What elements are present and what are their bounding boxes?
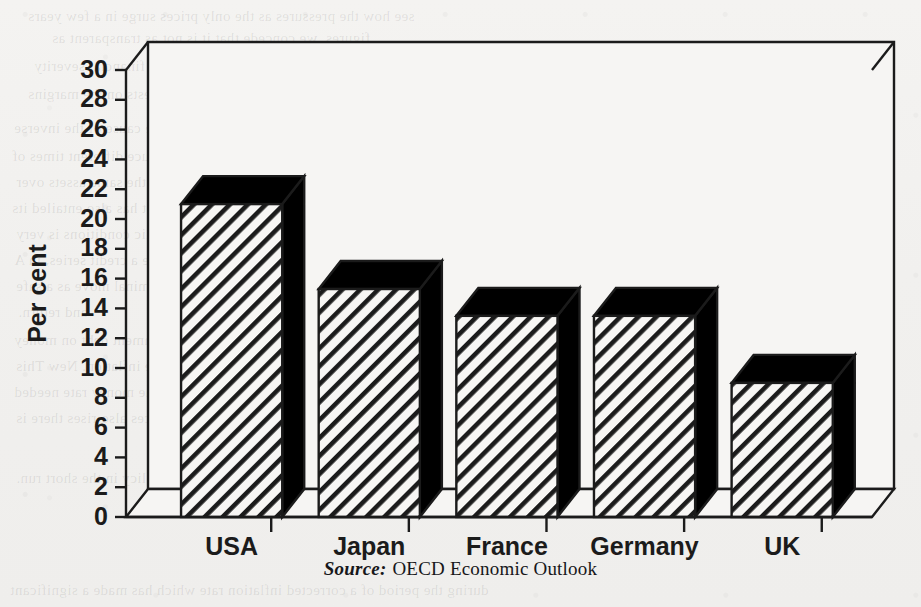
bar-top-face bbox=[732, 355, 855, 383]
bar-uk bbox=[732, 355, 855, 517]
bar-japan bbox=[319, 261, 442, 517]
bar-top-face bbox=[319, 261, 442, 289]
source-caption: Source:OECD Economic Outlook bbox=[0, 558, 921, 580]
bar-top-face bbox=[181, 176, 304, 204]
bar-france bbox=[456, 288, 579, 517]
bar-usa bbox=[181, 176, 304, 517]
y-tick-label: 8 bbox=[94, 382, 108, 410]
source-text: OECD Economic Outlook bbox=[392, 558, 597, 579]
y-tick-label: 22 bbox=[80, 174, 108, 202]
y-axis-title: Per cent bbox=[23, 244, 51, 343]
y-tick-label: 4 bbox=[94, 442, 108, 470]
bar-side-face bbox=[282, 176, 304, 517]
y-tick-label: 20 bbox=[80, 204, 108, 232]
y-tick-label: 18 bbox=[80, 233, 108, 261]
bar-chart-figure: 024681012141618202224262830USAJapanFranc… bbox=[0, 0, 921, 607]
plot-left-top-edge bbox=[126, 42, 148, 70]
y-tick-label: 0 bbox=[94, 502, 108, 530]
source-prefix: Source: bbox=[324, 558, 387, 579]
y-tick-label: 16 bbox=[80, 263, 108, 291]
chart-svg: 024681012141618202224262830USAJapanFranc… bbox=[0, 0, 921, 607]
bar-front-face bbox=[732, 383, 833, 517]
x-category-label: UK bbox=[764, 532, 800, 560]
y-tick-label: 12 bbox=[80, 323, 108, 351]
y-tick-label: 30 bbox=[80, 55, 108, 83]
y-tick-label: 26 bbox=[80, 114, 108, 142]
x-category-label: Japan bbox=[333, 532, 405, 560]
x-category-label: USA bbox=[205, 532, 258, 560]
bar-side-face bbox=[420, 261, 442, 517]
bar-front-face bbox=[456, 316, 557, 517]
y-tick-label: 24 bbox=[80, 144, 108, 172]
x-category-label: France bbox=[466, 532, 548, 560]
x-category-label: Germany bbox=[590, 532, 698, 560]
bar-front-face bbox=[594, 316, 695, 517]
y-tick-label: 2 bbox=[94, 472, 108, 500]
y-tick-label: 14 bbox=[80, 293, 108, 321]
bar-top-face bbox=[456, 288, 579, 316]
bar-side-face bbox=[695, 288, 717, 517]
bar-front-face bbox=[181, 204, 282, 517]
y-tick-label: 28 bbox=[80, 84, 108, 112]
y-tick-label: 6 bbox=[94, 412, 108, 440]
y-tick-label: 10 bbox=[80, 353, 108, 381]
bar-top-face bbox=[594, 288, 717, 316]
bar-front-face bbox=[319, 289, 420, 517]
bar-germany bbox=[594, 288, 717, 517]
bar-side-face bbox=[557, 288, 579, 517]
